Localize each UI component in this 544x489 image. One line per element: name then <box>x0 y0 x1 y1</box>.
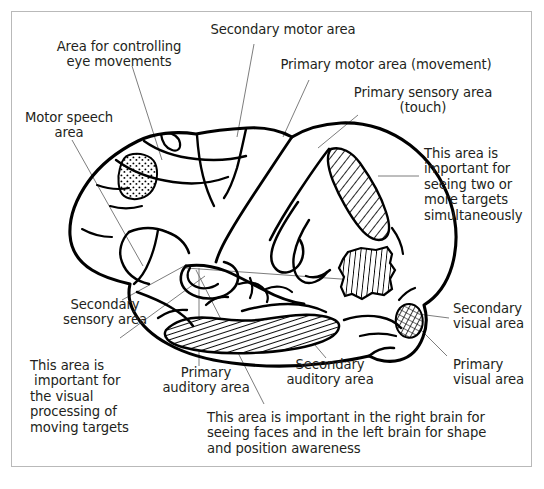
label-two-targets: This area is important for seeing two or… <box>424 146 540 223</box>
parieto-occipital-b <box>399 288 415 300</box>
label-primary-sensory: Primary sensory area (touch) <box>339 85 507 116</box>
central-sulcus-upper <box>224 129 246 198</box>
frontal-branch-a <box>161 133 180 151</box>
label-eye-movements: Area for controlling eye movements <box>44 39 194 70</box>
label-primary-visual: Primary visual area <box>453 357 543 388</box>
label-primary-auditory: Primary auditory area <box>151 365 261 396</box>
leader-primary-sensory <box>318 115 358 148</box>
label-primary-motor: Primary motor area (movement) <box>272 57 500 72</box>
leader-secondary-sensory <box>122 265 186 300</box>
central-sulcus <box>216 137 292 262</box>
occipital-notch <box>369 348 394 356</box>
occipital-fold-b <box>360 334 396 336</box>
leader-eye-movements <box>132 66 162 160</box>
frontal-sulcus-short-b <box>110 206 142 208</box>
two-targets-region <box>339 247 395 299</box>
postcentral-sulcus <box>270 149 329 240</box>
superior-temporal-sulcus <box>242 304 326 312</box>
leader-primary-motor <box>283 80 309 137</box>
leader-secondary-motor <box>237 44 254 137</box>
label-secondary-auditory: Secondary auditory area <box>272 357 388 388</box>
label-secondary-motor: Secondary motor area <box>203 22 363 37</box>
brain-areas-figure: Area for controlling eye movements Motor… <box>0 0 544 489</box>
label-secondary-sensory: Secondary sensory area <box>50 297 160 328</box>
label-motor-speech: Motor speech area <box>14 110 124 141</box>
inferior-frontal-fold <box>129 228 189 253</box>
superior-frontal-sulcus <box>144 141 246 160</box>
parieto-occipital-a <box>392 228 403 254</box>
label-secondary-visual: Secondary visual area <box>453 301 543 332</box>
label-moving-targets: This area is important for the visual pr… <box>30 358 160 435</box>
label-faces-shape: This area is important in the right brai… <box>207 410 527 456</box>
inferior-frontal-fold-b <box>120 232 149 284</box>
auditory-band-region <box>165 315 339 353</box>
precentral-sulcus <box>197 135 214 206</box>
mid-branch-b <box>250 278 252 298</box>
mid-branch-c <box>266 287 292 292</box>
visual-region <box>396 304 423 338</box>
primary-sensory-region <box>328 148 389 240</box>
supramarginal-curl <box>293 220 327 283</box>
occipital-fold-a <box>344 316 401 328</box>
frontal-sulcus-short-c <box>82 229 112 237</box>
